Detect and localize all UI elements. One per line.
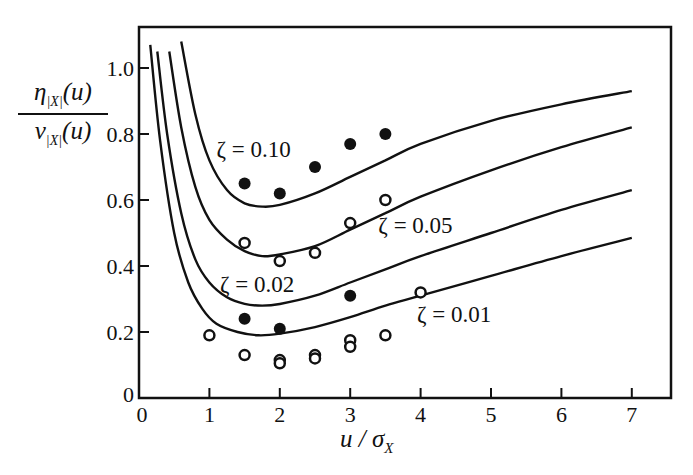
open-marker <box>345 342 355 352</box>
curve-label: ζ = 0.10 <box>216 137 290 162</box>
filled-marker <box>344 290 356 302</box>
open-marker <box>204 330 214 340</box>
chart: 0123456700.20.40.60.81.0 ζ = 0.10ζ = 0.0… <box>0 0 693 475</box>
x-tick-label: 1 <box>204 402 215 427</box>
open-marker <box>416 287 426 297</box>
x-axis-label: u / σX <box>340 425 393 457</box>
filled-marker <box>239 178 251 190</box>
x-tick-label: 6 <box>556 402 567 427</box>
open-marker <box>380 195 390 205</box>
open-marker <box>275 256 285 266</box>
open-marker <box>310 353 320 363</box>
x-tick-label: 3 <box>345 402 356 427</box>
x-tick-label: 7 <box>626 402 637 427</box>
filled-marker <box>239 313 251 325</box>
open-marker <box>240 350 250 360</box>
open-marker <box>240 238 250 248</box>
filled-marker <box>379 128 391 140</box>
open-marker <box>380 330 390 340</box>
x-tick-label: 0 <box>137 402 148 427</box>
open-marker <box>310 248 320 258</box>
filled-marker <box>309 161 321 173</box>
filled-marker <box>274 323 286 335</box>
curve-label: ζ = 0.05 <box>378 213 452 238</box>
curve-label: ζ = 0.01 <box>417 302 491 327</box>
tick-labels: 0123456700.20.40.60.81.0 <box>107 56 638 427</box>
y-label-numerator: η|X|(u) <box>18 78 108 115</box>
x-tick-label: 5 <box>486 402 497 427</box>
x-tick-label: 2 <box>274 402 285 427</box>
curve-line <box>157 52 631 306</box>
filled-marker <box>274 187 286 199</box>
y-tick-label: 0 <box>123 382 134 407</box>
y-label-denominator: ν|X|(u) <box>18 115 108 149</box>
y-tick-label: 1.0 <box>107 56 135 81</box>
open-marker <box>275 358 285 368</box>
y-tick-label: 0.2 <box>107 320 135 345</box>
filled-marker <box>344 138 356 150</box>
x-tick-label: 4 <box>415 402 426 427</box>
y-tick-label: 0.8 <box>107 122 135 147</box>
open-marker <box>345 218 355 228</box>
curve-label: ζ = 0.02 <box>220 272 294 297</box>
y-tick-label: 0.6 <box>107 188 135 213</box>
y-tick-label: 0.4 <box>107 254 135 279</box>
y-axis-label: η|X|(u) ν|X|(u) <box>18 78 108 149</box>
